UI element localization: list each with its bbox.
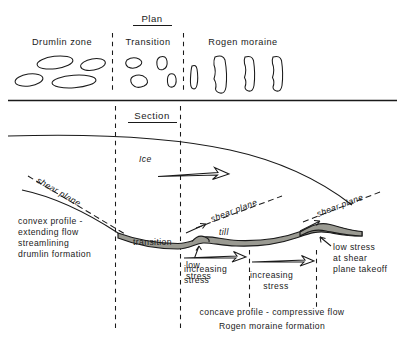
drumlin-shape (52, 74, 97, 90)
shear-plane-label-middle: shear plane (209, 197, 259, 224)
drumlin-shapes (14, 54, 106, 89)
increasing-stress-label-2: stress (263, 281, 288, 291)
transition-section-label: transition (133, 237, 172, 247)
section-title: Section (134, 110, 170, 121)
drumlin-shape (80, 57, 107, 72)
diagram-canvas: Plan Drumlin zone Transition Rogen morai… (0, 0, 405, 349)
plan-panel: Plan Drumlin zone Transition Rogen morai… (8, 13, 397, 101)
transition-shape (157, 57, 167, 70)
plan-title: Plan (141, 13, 162, 24)
rogen-shapes (190, 56, 282, 93)
drumlin-shape (14, 72, 43, 88)
bottom-caption-line: concave profile - compressive flow (200, 307, 345, 317)
left-caption: convex profile - extending flow streamli… (18, 216, 91, 259)
shear-plane-label-left: shear plane (35, 175, 83, 208)
rogen-ridge (214, 56, 227, 93)
section-panel: Section Ice shear plane till (8, 106, 387, 331)
left-caption-line: extending flow (18, 227, 79, 237)
transition-shapes (126, 57, 176, 88)
drumlin-shape (36, 54, 73, 71)
low-stress-takeoff-label: at shear (333, 253, 367, 263)
left-caption-line: convex profile - (18, 216, 83, 226)
left-caption-line: streamlining (18, 238, 69, 248)
left-caption-line: drumlin formation (18, 249, 91, 259)
low-stress-takeoff-label: low stress (333, 242, 375, 252)
low-stress-takeoff-label: plane takeoff (333, 264, 387, 274)
glacial-landform-diagram: Plan Drumlin zone Transition Rogen morai… (0, 0, 405, 349)
till-label: till (219, 227, 229, 237)
plan-zone-label-drumlin: Drumlin zone (32, 37, 92, 47)
transition-shape (131, 75, 148, 87)
ice-flow-arrow (158, 168, 229, 180)
low-stress-leader-1 (195, 246, 202, 258)
rogen-ridge (190, 65, 197, 88)
plan-zone-label-transition: Transition (126, 37, 171, 47)
increasing-stress-arrow-2 (252, 256, 314, 267)
transition-shape (126, 58, 142, 68)
bottom-caption-line: Rogen moraine formation (219, 321, 325, 331)
plan-zone-label-rogen: Rogen moraine (208, 37, 277, 47)
shear-arrow-middle (186, 224, 206, 234)
low-stress-label-1: low (186, 260, 200, 270)
low-stress-label-1: stress (186, 271, 211, 281)
ice-label: Ice (139, 154, 152, 164)
rogen-ridge (272, 56, 282, 91)
low-stress-takeoff-leader (320, 237, 331, 246)
rogen-ridge (244, 56, 254, 91)
increasing-stress-label-2: increasing (250, 270, 293, 280)
transition-shape (167, 74, 176, 87)
